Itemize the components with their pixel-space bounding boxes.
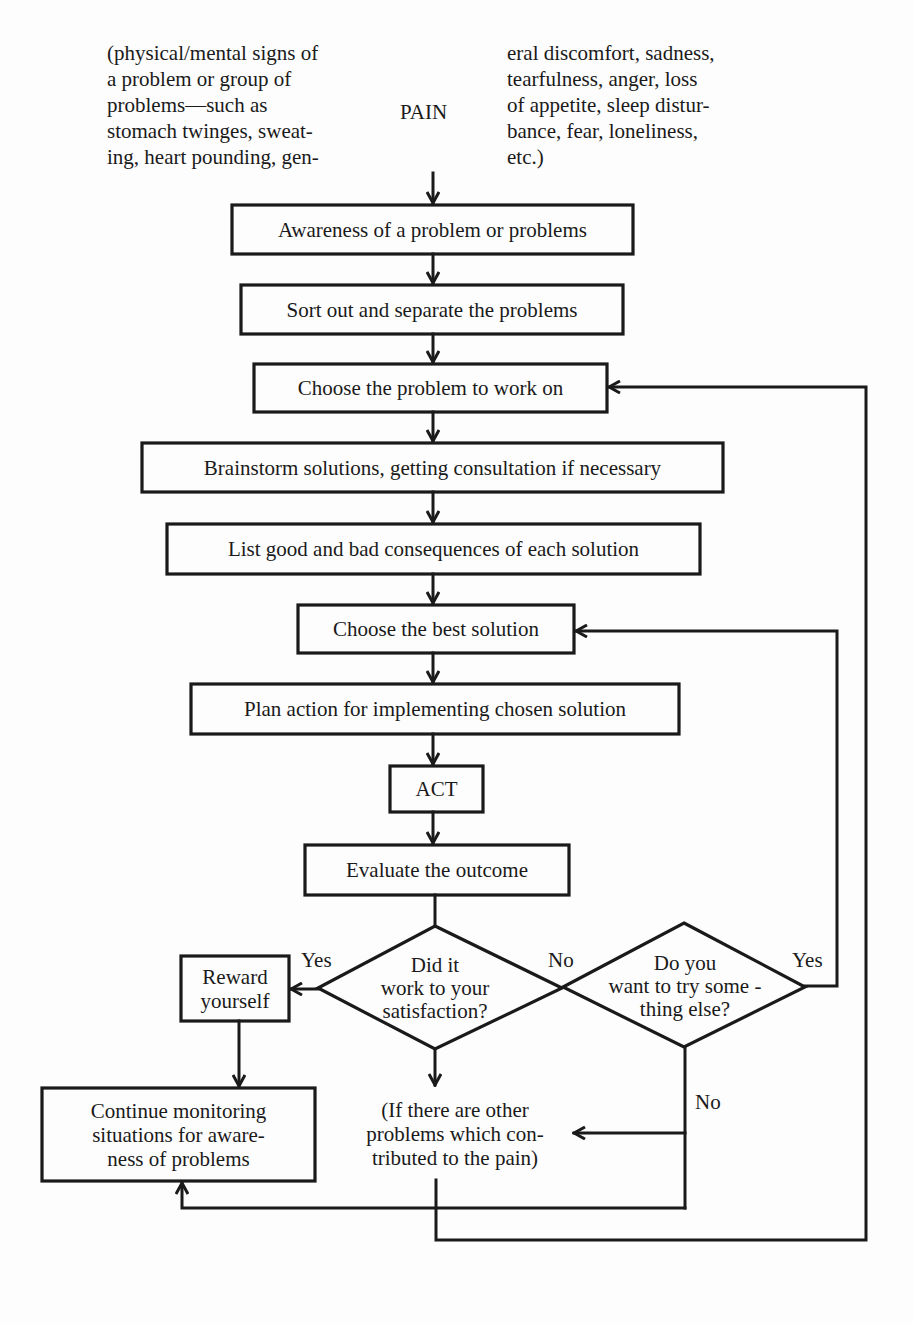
step-choose-solution-label: Choose the best solution xyxy=(298,605,574,653)
outcome-continue-monitoring-label: Continue monitoring situations for aware… xyxy=(42,1088,315,1181)
step-evaluate-label: Evaluate the outcome xyxy=(305,845,569,895)
outcome-reward-label: Reward yourself xyxy=(181,956,289,1021)
pain-signs-left-text: (physical/mental signs of a problem or g… xyxy=(107,40,319,170)
pain-signs-right-text: eral discomfort, sadness, tearfulness, a… xyxy=(507,40,715,170)
decision-try-else-no-label: No xyxy=(695,1090,721,1114)
pain-label: PAIN xyxy=(400,100,447,124)
outcome-other-problems-label: (If there are other problems which con- … xyxy=(355,1094,555,1174)
step-plan-action-label: Plan action for implementing chosen solu… xyxy=(191,684,679,734)
step-brainstorm-label: Brainstorm solutions, getting consultati… xyxy=(142,443,723,492)
decision-did-it-work-label: Did it work to your satisfaction? xyxy=(340,950,530,1026)
decision-did-it-work-no-label: No xyxy=(548,948,574,972)
decision-did-it-work-yes-label: Yes xyxy=(301,948,332,972)
decision-try-else-yes-label: Yes xyxy=(792,948,823,972)
step-list-consequences-label: List good and bad consequences of each s… xyxy=(167,524,700,574)
step-awareness-label: Awareness of a problem or problems xyxy=(232,205,633,254)
step-sort-label: Sort out and separate the problems xyxy=(241,285,623,334)
arrow-loop-to-continue-monitoring xyxy=(182,1183,685,1208)
step-act-label: ACT xyxy=(390,766,483,812)
decision-try-else-label: Do you want to try some - thing else? xyxy=(585,948,785,1024)
step-choose-problem-label: Choose the problem to work on xyxy=(254,364,607,412)
